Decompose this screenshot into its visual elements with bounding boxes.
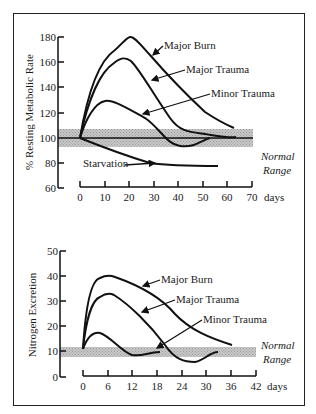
svg-text:0: 0 — [80, 380, 86, 392]
label-major-burn: Major Burn — [161, 273, 213, 285]
x-axis — [83, 370, 256, 376]
svg-text:140: 140 — [40, 81, 57, 93]
svg-text:6: 6 — [105, 380, 111, 392]
svg-text:18: 18 — [152, 380, 164, 392]
x-axis-unit: days — [264, 191, 284, 203]
svg-text:70: 70 — [247, 191, 259, 203]
label-normal-range-1: Normal — [260, 339, 295, 351]
svg-text:0: 0 — [77, 191, 83, 203]
svg-text:30: 30 — [47, 295, 59, 307]
svg-text:50: 50 — [198, 191, 210, 203]
label-starvation: Starvation — [83, 157, 129, 169]
label-major-trauma: Major Trauma — [186, 63, 249, 75]
svg-text:120: 120 — [40, 107, 57, 119]
svg-text:60: 60 — [222, 191, 234, 203]
nitrogen-excretion-chart: 50 40 30 20 10 0 Nitrogen Excretion 0 6 … — [26, 245, 295, 392]
svg-text:80: 80 — [45, 157, 57, 169]
svg-text:42: 42 — [251, 380, 262, 392]
y-tick-labels: 180 160 140 120 100 80 60 — [40, 31, 57, 194]
label-minor-trauma: Minor Trauma — [211, 87, 275, 99]
svg-text:160: 160 — [40, 56, 57, 68]
x-tick-labels: 0 10 20 30 40 50 60 70 — [77, 191, 258, 203]
svg-text:10: 10 — [47, 345, 59, 357]
svg-text:36: 36 — [226, 380, 238, 392]
y-axis-label: % Resting Metabolic Rate — [23, 54, 35, 170]
svg-text:12: 12 — [127, 380, 138, 392]
x-axis-unit: days — [267, 380, 287, 392]
svg-text:50: 50 — [47, 245, 59, 257]
svg-text:40: 40 — [47, 270, 59, 282]
svg-text:180: 180 — [40, 31, 57, 43]
y-axis-label: Nitrogen Excretion — [26, 272, 38, 357]
svg-text:10: 10 — [100, 191, 112, 203]
svg-text:40: 40 — [173, 191, 185, 203]
y-tick-labels: 50 40 30 20 10 0 — [47, 245, 59, 383]
svg-text:100: 100 — [40, 132, 57, 144]
svg-text:24: 24 — [177, 380, 189, 392]
svg-text:60: 60 — [45, 182, 57, 194]
svg-text:0: 0 — [53, 371, 59, 383]
svg-text:30: 30 — [149, 191, 161, 203]
label-normal-range-1: Normal — [260, 150, 295, 162]
charts-svg: 180 160 140 120 100 80 60 % Resting Meta… — [0, 0, 316, 414]
label-major-burn: Major Burn — [164, 39, 216, 51]
y-axis — [58, 37, 64, 188]
svg-text:30: 30 — [201, 380, 213, 392]
label-major-trauma: Major Trauma — [176, 293, 239, 305]
label-normal-range-2: Range — [262, 353, 291, 365]
metabolic-rate-chart: 180 160 140 120 100 80 60 % Resting Meta… — [23, 31, 295, 203]
label-minor-trauma: Minor Trauma — [203, 313, 267, 325]
y-axis — [60, 251, 66, 377]
svg-text:20: 20 — [124, 191, 136, 203]
svg-text:20: 20 — [47, 320, 59, 332]
x-axis — [80, 181, 252, 187]
label-normal-range-2: Range — [262, 164, 291, 176]
x-tick-labels: 0 6 12 18 24 30 36 42 — [80, 380, 261, 392]
